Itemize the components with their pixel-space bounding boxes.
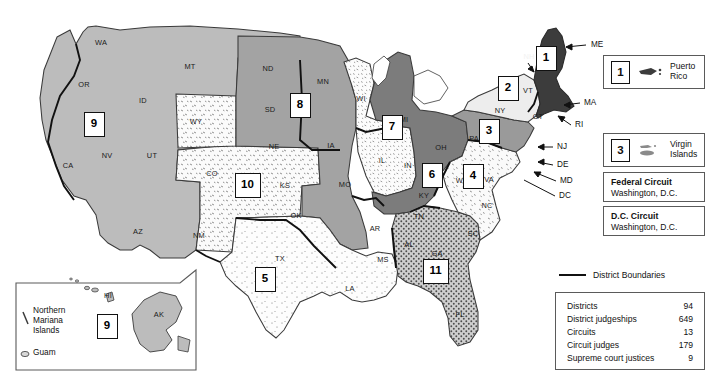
stats-label: District judgeships: [567, 313, 664, 326]
boundary-line-swatch: [559, 274, 586, 276]
stats-row: Circuits13: [567, 326, 693, 339]
dc-circuit-location: Washington, D.C.: [611, 222, 697, 232]
statistics-panel: Districts94District judgeships649Circuit…: [555, 292, 705, 370]
circuit-badge-2: 2: [498, 76, 519, 101]
stats-label: Districts: [567, 300, 664, 313]
circuit-badge-7: 7: [382, 115, 403, 140]
virgin-islands-icon: [637, 141, 663, 159]
circuit-badge-9: 9: [84, 112, 105, 137]
hawaii-islet-1: [92, 288, 99, 292]
legend-federal-circuit: Federal Circuit Washington, D.C.: [603, 172, 705, 202]
federal-circuit-location: Washington, D.C.: [611, 188, 697, 198]
stats-value: 94: [664, 300, 693, 313]
legend-number-3: 3: [611, 139, 630, 162]
hawaii-islet-3: [75, 280, 78, 282]
legend-dc-circuit: D.C. Circuit Washington, D.C.: [603, 206, 705, 236]
dc-circuit-title: D.C. Circuit: [611, 211, 697, 221]
region-circuit-10-wy: [176, 94, 236, 148]
legend-number-1: 1: [611, 61, 630, 84]
guam-icon: [21, 351, 29, 356]
legend-label-virgin-islands: VirginIslands: [670, 140, 697, 160]
stats-value: 179: [664, 339, 693, 352]
hawaii-islet-2: [84, 286, 89, 289]
stats-row: Supreme court justices9: [567, 352, 693, 365]
legend-puerto-rico: 1 PuertoRico: [603, 55, 705, 89]
stats-value: 649: [664, 313, 693, 326]
circuit-badge-11: 11: [423, 259, 449, 284]
legend-label-puerto-rico: PuertoRico: [670, 62, 695, 82]
stats-row: Circuit judges179: [567, 339, 693, 352]
stats-row: District judgeships649: [567, 313, 693, 326]
circuit-badge-6: 6: [422, 163, 443, 188]
stats-label: Supreme court justices: [567, 352, 664, 365]
federal-circuit-title: Federal Circuit: [611, 177, 697, 187]
circuit-badge-9-inset: 9: [97, 314, 118, 339]
hawaii-islet-4: [70, 278, 73, 280]
lake-huron-erie: [414, 70, 448, 104]
circuit-badge-5: 5: [255, 267, 276, 292]
legend-virgin-islands: 3 VirginIslands: [603, 133, 705, 167]
stats-label: Circuit judges: [567, 339, 664, 352]
district-boundaries-key: District Boundaries: [559, 270, 665, 280]
statistics-table: Districts94District judgeships649Circuit…: [567, 300, 693, 365]
puerto-rico-icon: [637, 64, 663, 80]
stats-label: Circuits: [567, 326, 664, 339]
boundary-key-label: District Boundaries: [593, 270, 665, 280]
stats-row: Districts94: [567, 300, 693, 313]
circuit-badge-4: 4: [463, 164, 484, 189]
stats-value: 13: [664, 326, 693, 339]
circuit-badge-8: 8: [290, 93, 311, 118]
circuit-badge-10: 10: [235, 173, 261, 198]
judicial-circuits-map: WAORCANVIDMTWYUTAZCONMNDSDNEKSOKTXMNIAMO…: [0, 0, 713, 385]
circuit-badge-1: 1: [536, 46, 557, 71]
circuit-badge-3: 3: [479, 119, 500, 144]
stats-value: 9: [664, 352, 693, 365]
region-circuit-5: [220, 216, 398, 338]
